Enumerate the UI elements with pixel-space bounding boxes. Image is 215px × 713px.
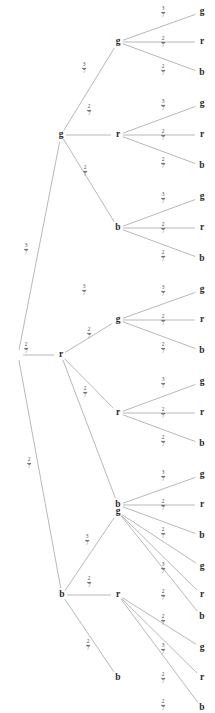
edge-prob-level1-0: 37 — [24, 243, 28, 255]
edge-prob-leaf-0: 37 — [161, 6, 165, 18]
edge-prob-level2-3: 37 — [82, 284, 86, 296]
tree-leaf-14-b: b — [199, 439, 204, 449]
tree-leaf-18-g: g — [200, 562, 205, 572]
fraction-denominator: 7 — [161, 106, 165, 112]
edge-level2-to-leaf-12 — [123, 385, 195, 412]
fraction-denominator: 7 — [83, 172, 87, 178]
edge-prob-level2-6: 37 — [85, 534, 89, 546]
fraction-denominator: 7 — [161, 534, 165, 540]
edge-prob-leaf-4: 27 — [161, 129, 165, 141]
tree-leaf-10-r: r — [200, 315, 204, 325]
fraction-denominator: 7 — [24, 349, 28, 355]
fraction-denominator: 7 — [27, 464, 31, 470]
fraction-denominator: 7 — [87, 111, 91, 117]
tree-node-level2-1-r: r — [116, 130, 120, 140]
fraction-denominator: 7 — [161, 506, 165, 512]
edge-prob-leaf-1: 27 — [161, 36, 165, 48]
edge-prob-leaf-3: 37 — [161, 99, 165, 111]
tree-leaf-21-g: g — [200, 643, 205, 653]
fraction-denominator: 7 — [161, 71, 165, 77]
fraction-denominator: 7 — [161, 164, 165, 170]
edge-prob-level1-2: 27 — [27, 457, 31, 469]
edge-level2-to-leaf-22 — [122, 599, 197, 673]
tree-node-level2-2-b: b — [115, 223, 120, 233]
edge-prob-level2-0: 37 — [82, 62, 86, 74]
edge-prob-level2-2: 27 — [83, 165, 87, 177]
edge-level2-to-leaf-17 — [123, 507, 195, 534]
edge-prob-leaf-21: 37 — [161, 643, 165, 655]
fraction-denominator: 7 — [82, 69, 86, 75]
tree-node-level2-7-r: r — [116, 590, 120, 600]
edge-prob-leaf-5: 27 — [161, 157, 165, 169]
fraction-denominator: 7 — [161, 650, 165, 656]
fraction-denominator: 7 — [161, 349, 165, 355]
tree-node-level2-0-g: g — [116, 37, 121, 47]
edge-layer — [19, 15, 198, 702]
tree-leaf-0-g: g — [200, 7, 205, 17]
tree-leaf-19-r: r — [200, 590, 204, 600]
edge-level2-to-leaf-14 — [123, 415, 195, 442]
edge-prob-leaf-17: 27 — [161, 527, 165, 539]
tree-node-level2-6-g: g — [116, 507, 121, 517]
tree-edges-canvas — [0, 0, 215, 713]
edge-prob-level2-5: 27 — [83, 386, 87, 398]
tree-node-level1-0-g: g — [59, 130, 64, 140]
edge-prob-level2-8: 27 — [86, 639, 90, 651]
fraction-denominator: 7 — [161, 136, 165, 142]
tree-leaf-1-r: r — [200, 37, 204, 47]
fraction-denominator: 7 — [161, 43, 165, 49]
edge-prob-leaf-8: 27 — [161, 250, 165, 262]
edge-level1-to-level2-0 — [64, 48, 114, 130]
edge-level1-to-level2-5 — [63, 360, 115, 498]
tree-leaf-11-b: b — [199, 346, 204, 356]
tree-leaf-16-r: r — [200, 500, 204, 510]
edge-level2-to-leaf-0 — [123, 15, 195, 41]
tree-node-level2-8-b: b — [115, 673, 120, 683]
fraction-denominator: 7 — [161, 596, 165, 602]
fraction-denominator: 7 — [161, 442, 165, 448]
edge-level2-to-leaf-8 — [123, 230, 195, 257]
tree-leaf-13-r: r — [200, 408, 204, 418]
edge-level2-to-leaf-9 — [123, 293, 195, 319]
edge-prob-level2-4: 27 — [87, 327, 91, 339]
tree-leaf-15-g: g — [200, 470, 205, 480]
edge-level2-to-leaf-6 — [123, 200, 195, 227]
edge-level2-to-leaf-20 — [121, 516, 197, 611]
edge-prob-leaf-16: 27 — [161, 499, 165, 511]
edge-level1-to-level2-4 — [65, 359, 113, 408]
tree-leaf-6-g: g — [200, 192, 205, 202]
edge-prob-leaf-6: 37 — [161, 192, 165, 204]
tree-node-level2-3-g: g — [116, 315, 121, 325]
fraction-denominator: 7 — [161, 229, 165, 235]
tree-leaf-7-r: r — [200, 223, 204, 233]
fraction-denominator: 7 — [161, 706, 165, 712]
edge-level2-to-leaf-19 — [122, 516, 197, 590]
fraction-denominator: 7 — [24, 250, 28, 256]
fraction-denominator: 7 — [161, 292, 165, 298]
fraction-denominator: 7 — [83, 393, 87, 399]
fraction-denominator: 7 — [161, 679, 165, 685]
edge-prob-leaf-9: 37 — [161, 285, 165, 297]
fraction-denominator: 7 — [161, 414, 165, 420]
edge-prob-leaf-22: 27 — [161, 672, 165, 684]
tree-leaf-2-b: b — [199, 68, 204, 78]
fraction-denominator: 7 — [161, 621, 165, 627]
fraction-denominator: 7 — [161, 569, 165, 575]
edge-level2-to-leaf-23 — [121, 599, 197, 702]
tree-leaf-4-r: r — [200, 130, 204, 140]
tree-leaf-3-g: g — [200, 99, 205, 109]
fraction-denominator: 7 — [161, 257, 165, 263]
probability-tree-diagram: grbgrbgrbgrbgrbgrbgrbgrbgrbgrbgrbgrb 372… — [0, 0, 215, 713]
edge-level2-to-leaf-2 — [123, 44, 195, 71]
tree-leaf-5-b: b — [199, 161, 204, 171]
edge-level2-to-leaf-3 — [123, 107, 195, 134]
edge-level2-to-leaf-5 — [123, 137, 195, 164]
edge-prob-level1-1: 27 — [24, 342, 28, 354]
tree-leaf-20-b: b — [199, 612, 204, 622]
edge-prob-leaf-2: 27 — [161, 64, 165, 76]
edge-level2-to-leaf-15 — [123, 478, 195, 504]
edge-prob-leaf-19: 27 — [161, 589, 165, 601]
edge-level1-to-level2-2 — [64, 140, 114, 222]
tree-leaf-8-b: b — [199, 254, 204, 264]
edge-root-to-level1-2 — [19, 360, 61, 587]
